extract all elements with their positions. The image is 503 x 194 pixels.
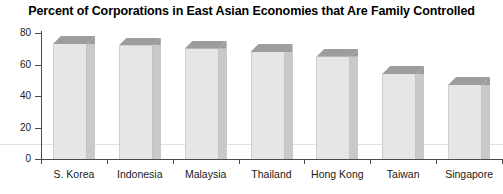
x-tick-label: Singapore bbox=[436, 168, 502, 180]
bar-side-face bbox=[153, 46, 161, 159]
y-tick-label: 60 bbox=[0, 60, 31, 70]
bar-front-face bbox=[316, 57, 350, 159]
bar-side-face bbox=[87, 44, 95, 159]
y-tick-label: 80 bbox=[0, 28, 31, 38]
bar-front-face bbox=[119, 46, 153, 159]
bar-front-face bbox=[53, 44, 87, 159]
x-tick-label: Thailand bbox=[239, 168, 305, 180]
bar-side-face bbox=[219, 49, 227, 159]
bar bbox=[119, 38, 153, 159]
plot-area bbox=[41, 33, 502, 159]
bar bbox=[53, 36, 87, 159]
bar-front-face bbox=[185, 49, 219, 159]
x-tick-label: Hong Kong bbox=[304, 168, 370, 180]
x-tick-mark bbox=[173, 159, 174, 164]
x-tick-label: S. Korea bbox=[41, 168, 107, 180]
bar-front-face bbox=[251, 52, 285, 159]
bar bbox=[185, 41, 219, 159]
y-tick-label: 0 bbox=[0, 154, 31, 164]
x-tick-mark bbox=[41, 159, 42, 164]
bar-front-face bbox=[382, 74, 416, 159]
x-tick-mark bbox=[436, 159, 437, 164]
bar-side-face bbox=[350, 57, 358, 159]
x-axis-line bbox=[41, 159, 502, 160]
x-tick-label: Taiwan bbox=[370, 168, 436, 180]
bar bbox=[251, 44, 285, 159]
bar bbox=[448, 77, 482, 159]
y-tick-label: 20 bbox=[0, 123, 31, 133]
bar-side-face bbox=[285, 52, 293, 159]
bar-chart: Percent of Corporations in East Asian Ec… bbox=[0, 0, 503, 194]
y-tick-label: 40 bbox=[0, 91, 31, 101]
x-tick-label: Indonesia bbox=[107, 168, 173, 180]
x-tick-mark bbox=[304, 159, 305, 164]
x-tick-mark bbox=[239, 159, 240, 164]
bar-side-face bbox=[416, 74, 424, 159]
x-tick-mark bbox=[107, 159, 108, 164]
bar bbox=[316, 49, 350, 159]
bar bbox=[382, 66, 416, 159]
x-tick-label: Malaysia bbox=[173, 168, 239, 180]
bar-side-face bbox=[482, 85, 490, 159]
bar-front-face bbox=[448, 85, 482, 159]
chart-title: Percent of Corporations in East Asian Ec… bbox=[0, 4, 503, 18]
x-tick-mark bbox=[370, 159, 371, 164]
